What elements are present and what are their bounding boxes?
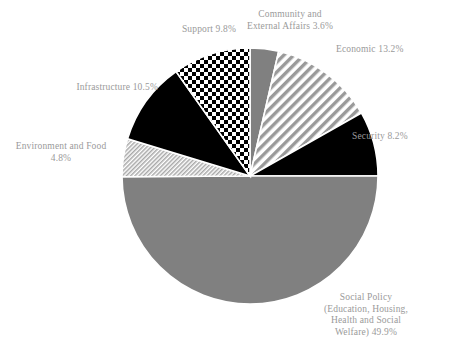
slice-label-economic: Economic 13.2% (336, 44, 448, 56)
slice-label-community-and-external-affairs: Community and External Affairs 3.6% (226, 9, 354, 32)
slice-label-social-policy: Social Policy (Education, Housing, Healt… (290, 292, 442, 338)
slice-label-environment-and-food: Environment and Food 4.8% (2, 141, 120, 164)
pie-slice (122, 176, 378, 304)
slice-label-security: Security 8.2% (352, 131, 452, 143)
slice-label-infrastructure: Infrastructure 10.5% (36, 82, 158, 94)
chart-canvas: Community and External Affairs 3.6% Econ… (0, 0, 458, 357)
slice-label-support: Support 9.8% (140, 24, 236, 36)
